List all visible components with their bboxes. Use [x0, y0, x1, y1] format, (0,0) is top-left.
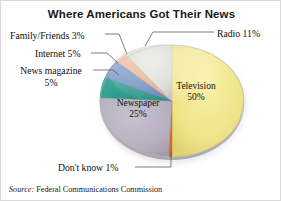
slice-label-newspaper-value: 25% [129, 109, 146, 119]
callout-label-radio: Radio 11% [217, 28, 260, 40]
callout-label-family-friends: Family/Friends 3% [10, 30, 85, 42]
slice-label-newspaper: Newspaper 25% [101, 98, 175, 120]
slice-label-television-name: Television [176, 81, 215, 91]
source-prefix: Source: [9, 185, 34, 194]
source-note: Source: Federal Communications Commissio… [9, 185, 162, 194]
callout-label-news-magazine: News magazine 5% [8, 65, 94, 88]
callout-label-news-magazine-value: 5% [45, 77, 58, 88]
slice-label-newspaper-name: Newspaper [117, 98, 160, 108]
callout-label-news-magazine-name: News magazine [20, 65, 82, 76]
slice-label-television-value: 50% [187, 92, 204, 102]
callout-label-internet: Internet 5% [35, 48, 80, 60]
chart-title: Where Americans Got Their News [1, 8, 281, 20]
source-text: Federal Communications Commission [34, 185, 162, 194]
chart-figure: Where Americans Got Their News [0, 0, 281, 201]
callout-label-dont-know: Don't know 1% [58, 162, 118, 174]
